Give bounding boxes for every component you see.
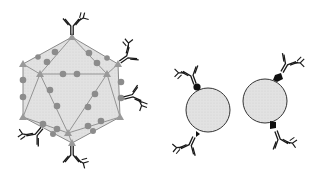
antibody — [63, 146, 90, 168]
tag-bottom — [270, 121, 276, 129]
tag-top — [273, 73, 283, 82]
sphere-body — [186, 88, 230, 132]
diagram-canvas: Icosahedral particle with surface-displa… — [0, 0, 326, 183]
sphere-particle-2 — [243, 47, 309, 156]
sphere-body — [243, 79, 287, 123]
antibody — [122, 84, 150, 114]
antibody — [268, 125, 301, 155]
tag-top — [193, 83, 200, 90]
diagram-svg — [0, 0, 326, 183]
icosahedron-particle — [14, 11, 150, 169]
tag-bottom — [196, 131, 200, 137]
antibody — [63, 11, 89, 35]
sphere-particle-1 — [169, 61, 230, 163]
